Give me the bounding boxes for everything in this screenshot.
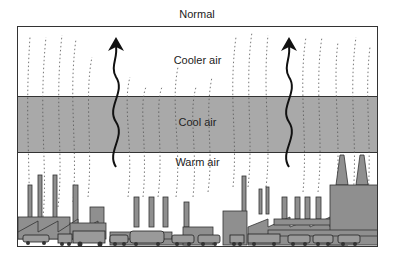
diagram-title: Normal <box>0 8 394 20</box>
rising-air-arrows <box>113 47 292 167</box>
diagram-graphics <box>18 27 378 247</box>
smokestacks <box>28 155 368 227</box>
atmosphere-diagram: Cooler air Cool air Warm air <box>17 26 378 247</box>
